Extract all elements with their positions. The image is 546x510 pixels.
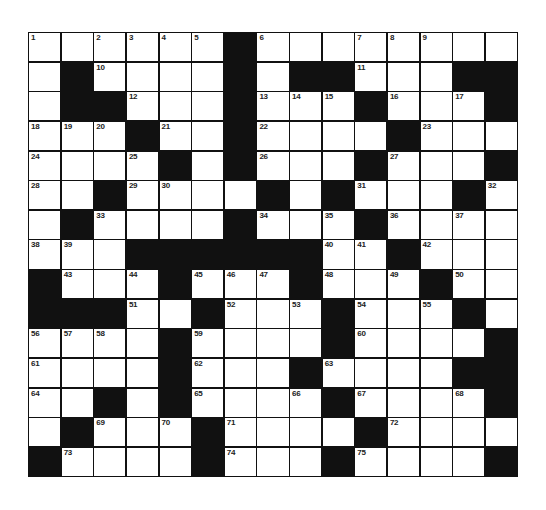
grid-cell[interactable]: 45 bbox=[192, 270, 223, 298]
grid-cell[interactable] bbox=[94, 240, 125, 268]
grid-cell[interactable] bbox=[160, 211, 191, 239]
grid-cell[interactable] bbox=[323, 418, 354, 446]
grid-cell[interactable] bbox=[388, 63, 419, 91]
grid-cell[interactable]: 10 bbox=[94, 63, 125, 91]
grid-cell[interactable] bbox=[290, 448, 321, 476]
grid-cell[interactable]: 3 bbox=[127, 33, 158, 61]
grid-cell[interactable] bbox=[453, 122, 484, 150]
grid-cell[interactable] bbox=[323, 152, 354, 180]
grid-cell[interactable] bbox=[290, 211, 321, 239]
grid-cell[interactable] bbox=[192, 211, 223, 239]
grid-cell[interactable] bbox=[160, 92, 191, 120]
grid-cell[interactable] bbox=[421, 448, 452, 476]
grid-cell[interactable]: 54 bbox=[355, 300, 386, 328]
grid-cell[interactable]: 53 bbox=[290, 300, 321, 328]
grid-cell[interactable] bbox=[421, 418, 452, 446]
grid-cell[interactable]: 63 bbox=[323, 359, 354, 387]
grid-cell[interactable]: 17 bbox=[453, 92, 484, 120]
grid-cell[interactable]: 71 bbox=[225, 418, 256, 446]
grid-cell[interactable] bbox=[257, 418, 288, 446]
grid-cell[interactable] bbox=[225, 329, 256, 357]
grid-cell[interactable]: 1 bbox=[29, 33, 60, 61]
grid-cell[interactable] bbox=[388, 359, 419, 387]
grid-cell[interactable]: 61 bbox=[29, 359, 60, 387]
grid-cell[interactable] bbox=[421, 329, 452, 357]
grid-cell[interactable] bbox=[290, 418, 321, 446]
grid-cell[interactable] bbox=[453, 448, 484, 476]
grid-cell[interactable]: 51 bbox=[127, 300, 158, 328]
grid-cell[interactable]: 70 bbox=[160, 418, 191, 446]
grid-cell[interactable] bbox=[290, 122, 321, 150]
grid-cell[interactable] bbox=[388, 448, 419, 476]
grid-cell[interactable]: 46 bbox=[225, 270, 256, 298]
grid-cell[interactable]: 19 bbox=[62, 122, 93, 150]
grid-cell[interactable] bbox=[257, 389, 288, 417]
grid-cell[interactable]: 38 bbox=[29, 240, 60, 268]
grid-cell[interactable]: 47 bbox=[257, 270, 288, 298]
grid-cell[interactable] bbox=[29, 211, 60, 239]
grid-cell[interactable]: 34 bbox=[257, 211, 288, 239]
grid-cell[interactable]: 58 bbox=[94, 329, 125, 357]
grid-cell[interactable]: 21 bbox=[160, 122, 191, 150]
grid-cell[interactable]: 36 bbox=[388, 211, 419, 239]
grid-cell[interactable] bbox=[127, 448, 158, 476]
grid-cell[interactable] bbox=[486, 418, 517, 446]
grid-cell[interactable]: 59 bbox=[192, 329, 223, 357]
grid-cell[interactable]: 73 bbox=[62, 448, 93, 476]
grid-cell[interactable]: 55 bbox=[421, 300, 452, 328]
grid-cell[interactable] bbox=[127, 329, 158, 357]
grid-cell[interactable] bbox=[192, 152, 223, 180]
grid-cell[interactable] bbox=[453, 329, 484, 357]
grid-cell[interactable]: 52 bbox=[225, 300, 256, 328]
grid-cell[interactable]: 16 bbox=[388, 92, 419, 120]
grid-cell[interactable] bbox=[355, 359, 386, 387]
grid-cell[interactable]: 8 bbox=[388, 33, 419, 61]
grid-cell[interactable] bbox=[29, 92, 60, 120]
grid-cell[interactable]: 35 bbox=[323, 211, 354, 239]
grid-cell[interactable] bbox=[323, 122, 354, 150]
grid-cell[interactable] bbox=[62, 389, 93, 417]
grid-cell[interactable] bbox=[290, 329, 321, 357]
grid-cell[interactable]: 28 bbox=[29, 181, 60, 209]
grid-cell[interactable]: 5 bbox=[192, 33, 223, 61]
grid-cell[interactable] bbox=[127, 63, 158, 91]
grid-cell[interactable] bbox=[257, 329, 288, 357]
grid-cell[interactable] bbox=[453, 33, 484, 61]
grid-cell[interactable] bbox=[62, 359, 93, 387]
grid-cell[interactable] bbox=[486, 122, 517, 150]
grid-cell[interactable]: 64 bbox=[29, 389, 60, 417]
grid-cell[interactable]: 72 bbox=[388, 418, 419, 446]
grid-cell[interactable]: 62 bbox=[192, 359, 223, 387]
grid-cell[interactable] bbox=[290, 152, 321, 180]
grid-cell[interactable]: 39 bbox=[62, 240, 93, 268]
grid-cell[interactable] bbox=[355, 122, 386, 150]
grid-cell[interactable]: 32 bbox=[486, 181, 517, 209]
grid-cell[interactable]: 44 bbox=[127, 270, 158, 298]
grid-cell[interactable]: 20 bbox=[94, 122, 125, 150]
grid-cell[interactable] bbox=[225, 181, 256, 209]
grid-cell[interactable]: 37 bbox=[453, 211, 484, 239]
grid-cell[interactable]: 41 bbox=[355, 240, 386, 268]
grid-cell[interactable] bbox=[225, 389, 256, 417]
grid-cell[interactable]: 29 bbox=[127, 181, 158, 209]
grid-cell[interactable] bbox=[127, 359, 158, 387]
grid-cell[interactable] bbox=[257, 359, 288, 387]
grid-cell[interactable] bbox=[62, 181, 93, 209]
grid-cell[interactable] bbox=[290, 181, 321, 209]
grid-cell[interactable]: 2 bbox=[94, 33, 125, 61]
grid-cell[interactable] bbox=[29, 418, 60, 446]
grid-cell[interactable] bbox=[127, 211, 158, 239]
grid-cell[interactable] bbox=[388, 329, 419, 357]
grid-cell[interactable] bbox=[160, 300, 191, 328]
grid-cell[interactable] bbox=[192, 122, 223, 150]
grid-cell[interactable]: 49 bbox=[388, 270, 419, 298]
grid-cell[interactable]: 24 bbox=[29, 152, 60, 180]
grid-cell[interactable]: 33 bbox=[94, 211, 125, 239]
grid-cell[interactable]: 56 bbox=[29, 329, 60, 357]
grid-cell[interactable]: 68 bbox=[453, 389, 484, 417]
grid-cell[interactable] bbox=[257, 63, 288, 91]
grid-cell[interactable] bbox=[421, 359, 452, 387]
grid-cell[interactable] bbox=[192, 63, 223, 91]
grid-cell[interactable] bbox=[453, 418, 484, 446]
grid-cell[interactable]: 40 bbox=[323, 240, 354, 268]
